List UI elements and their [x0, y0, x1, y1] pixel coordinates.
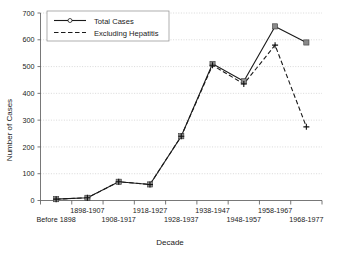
x-tick-label: 1918-1927: [133, 206, 167, 215]
legend-marker-total-cases: [68, 19, 72, 23]
x-tick-label: 1968-1977: [289, 215, 323, 224]
legend-label-excluding-hepatitis: Excluding Hepatitis: [94, 29, 159, 38]
data-point-marker: [272, 24, 277, 29]
y-tick-label: 300: [23, 116, 35, 125]
x-axis-title: Decade: [156, 238, 184, 247]
y-tick-label: 700: [23, 9, 35, 18]
y-tick-label: 400: [23, 89, 35, 98]
x-tick-label: 1898-1907: [70, 206, 104, 215]
x-tick-label: 1928-1937: [164, 215, 198, 224]
y-tick-label: 500: [23, 62, 35, 71]
x-tick-label: 1958-1967: [258, 206, 292, 215]
x-tick-label: 1948-1957: [227, 215, 261, 224]
y-axis-title: Number of Cases: [5, 99, 14, 161]
data-point-marker: [304, 40, 309, 45]
y-tick-label: 600: [23, 35, 35, 44]
x-tick-label: 1908-1917: [102, 215, 136, 224]
y-tick-label: 100: [23, 169, 35, 178]
x-tick-label: Before 1898: [37, 215, 76, 224]
x-tick-label: 1938-1947: [195, 206, 229, 215]
legend-label-total-cases: Total Cases: [94, 17, 134, 26]
decade-cases-line-chart: 0100200300400500600700 Before 18981898-1…: [0, 0, 340, 262]
y-tick-label: 200: [23, 143, 35, 152]
chart-legend: Total Cases Excluding Hepatitis: [47, 11, 169, 41]
y-tick-label: 0: [31, 196, 35, 205]
chart-container: 0100200300400500600700 Before 18981898-1…: [0, 0, 340, 262]
